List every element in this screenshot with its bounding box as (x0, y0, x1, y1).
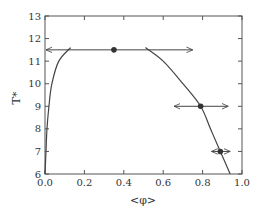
y-tick-labels: 678910111213 (28, 11, 41, 180)
x-tick-label: 0.8 (195, 177, 211, 188)
data-point (198, 103, 204, 109)
y-tick-label: 8 (35, 123, 41, 134)
data-point (111, 47, 117, 53)
y-tick-label: 10 (28, 78, 41, 89)
y-axis-label: T* (10, 91, 23, 104)
x-tick-labels: 0.00.20.40.60.81.0 (37, 177, 250, 188)
axis-ticks (45, 16, 242, 174)
y-tick-label: 12 (28, 33, 41, 44)
phase-diagram-chart: 0.00.20.40.60.81.0 678910111213 <φ> T* (0, 0, 256, 211)
x-tick-label: 0.6 (155, 177, 171, 188)
plot-frame (45, 16, 242, 174)
coexistence-curve-right-branch (145, 48, 230, 174)
x-axis-label: <φ> (130, 194, 156, 207)
y-tick-label: 7 (35, 146, 41, 157)
y-tick-label: 9 (35, 101, 41, 112)
y-tick-label: 11 (28, 56, 41, 67)
x-tick-label: 1.0 (234, 177, 250, 188)
x-tick-label: 0.2 (76, 177, 92, 188)
x-tick-label: 0.4 (116, 177, 132, 188)
coexistence-curve-left-branch (45, 48, 71, 174)
data-points (46, 47, 230, 154)
coexistence-curves (45, 48, 230, 174)
data-point (218, 149, 224, 155)
y-tick-label: 6 (35, 169, 41, 180)
y-tick-label: 13 (28, 11, 41, 22)
